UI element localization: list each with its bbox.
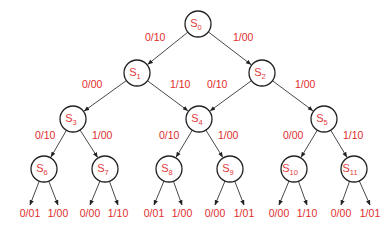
- transition-label: 1/10: [343, 129, 364, 141]
- output-arrow: [173, 181, 182, 205]
- state-node-s9: S9: [217, 156, 243, 182]
- state-node-s8: S8: [156, 156, 182, 182]
- output-label: 0/01: [20, 207, 41, 219]
- transition-arrow-s5-s10: [301, 130, 317, 157]
- state-node-s6: S6: [31, 156, 57, 182]
- output-arrow: [341, 181, 350, 205]
- output-arrow: [279, 181, 289, 205]
- state-node-s4: S4: [186, 106, 212, 132]
- output-label: 1/10: [108, 207, 129, 219]
- nodes-layer: S0S1S2S3S4S5S6S7S8S9S10S11: [31, 11, 367, 182]
- output-label: 0/00: [80, 207, 101, 219]
- state-node-s7: S7: [92, 156, 118, 182]
- output-label: 1/01: [360, 207, 381, 219]
- transition-label: 1/00: [233, 31, 254, 43]
- output-label: 1/00: [172, 207, 193, 219]
- output-label: 1/10: [297, 207, 318, 219]
- transition-label: 1/00: [92, 129, 113, 141]
- state-node-s5: S5: [311, 106, 337, 132]
- transition-label: 0/10: [35, 129, 56, 141]
- state-node-s10: S10: [281, 156, 307, 182]
- output-arrow: [49, 181, 58, 205]
- output-label: 0/00: [269, 207, 290, 219]
- output-arrow: [30, 181, 39, 205]
- output-label: 0/00: [205, 207, 226, 219]
- state-node-s2: S2: [249, 60, 275, 86]
- transition-label: 0/00: [283, 129, 304, 141]
- output-arrow: [215, 181, 225, 205]
- transition-label: 0/10: [145, 31, 166, 43]
- transition-label: 1/00: [295, 78, 316, 90]
- transition-label: 0/00: [82, 78, 103, 90]
- transition-label: 1/00: [218, 129, 239, 141]
- transition-label: 0/10: [207, 78, 228, 90]
- state-node-s1: S1: [124, 60, 150, 86]
- output-arrow: [154, 181, 164, 205]
- output-arrow: [235, 181, 244, 205]
- output-arrow: [109, 181, 118, 205]
- transition-label: 0/10: [159, 129, 180, 141]
- output-label: 1/01: [234, 207, 255, 219]
- output-arrow: [298, 181, 307, 205]
- state-node-s3: S3: [60, 106, 86, 132]
- output-label: 0/01: [144, 207, 165, 219]
- state-tree-diagram: S0S1S2S3S4S5S6S7S8S9S10S11 0/101/000/001…: [0, 0, 390, 230]
- output-label: 1/00: [48, 207, 69, 219]
- transition-label: 1/10: [170, 78, 191, 90]
- state-node-s11: S11: [341, 156, 367, 182]
- output-arrow: [90, 181, 100, 205]
- output-arrow: [359, 181, 370, 205]
- state-node-s0: S0: [185, 11, 211, 37]
- output-label: 0/00: [331, 207, 352, 219]
